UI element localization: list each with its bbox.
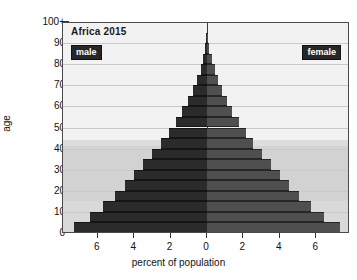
bar-female [207, 96, 227, 107]
bar-female [207, 170, 280, 181]
bar-male [125, 180, 207, 191]
y-axis-title: age [1, 104, 12, 144]
bar-female [207, 159, 271, 170]
bar-female [207, 212, 324, 223]
plot-area: Africa 2015 male female [62, 22, 349, 233]
bar-male [176, 117, 207, 128]
x-tick-label: 2 [167, 241, 173, 252]
bar-male [169, 128, 207, 139]
x-tick-label: 4 [130, 241, 136, 252]
bar-male [197, 75, 207, 86]
x-tick-label: 6 [94, 241, 100, 252]
bar-male [143, 159, 207, 170]
bar-female [207, 54, 212, 65]
bar-male [152, 149, 207, 160]
bar-female [207, 117, 239, 128]
x-tick-mark [170, 233, 171, 238]
bar-female [207, 64, 215, 75]
bar-female [207, 43, 209, 54]
bar-female [207, 180, 289, 191]
bar-male [115, 191, 207, 202]
bar-female [207, 191, 299, 202]
x-tick-mark [315, 233, 316, 238]
bar-female [207, 149, 262, 160]
chart-title: Africa 2015 [71, 26, 127, 37]
x-tick-mark [242, 233, 243, 238]
bar-male [182, 106, 207, 117]
x-tick-mark [133, 233, 134, 238]
bar-female [207, 75, 218, 86]
bar-male [193, 85, 207, 96]
bar-female [207, 201, 311, 212]
x-tick-mark [97, 233, 98, 238]
bar-female [207, 138, 253, 149]
legend-male: male [71, 45, 102, 60]
bar-male [74, 222, 207, 233]
bar-female [207, 222, 340, 233]
bar-male [161, 138, 207, 149]
x-tick-mark [206, 233, 207, 238]
bar-male [188, 96, 207, 107]
population-pyramid-figure: age 0102030405060708090100+ Africa 2015 … [0, 0, 357, 280]
bar-female [207, 106, 232, 117]
bar-male [103, 201, 207, 212]
x-tick-label: 4 [276, 241, 282, 252]
bar-female [207, 33, 208, 44]
x-axis-title: percent of population [0, 257, 357, 268]
bar-male [90, 212, 207, 223]
legend-female: female [302, 45, 341, 60]
x-tick-mark [279, 233, 280, 238]
x-tick-label: 0 [203, 241, 209, 252]
bar-male [134, 170, 207, 181]
x-tick-label: 2 [240, 241, 246, 252]
bar-female [207, 85, 222, 96]
gridline-horizontal [63, 22, 348, 23]
x-tick-label: 6 [312, 241, 318, 252]
bar-female [207, 128, 246, 139]
